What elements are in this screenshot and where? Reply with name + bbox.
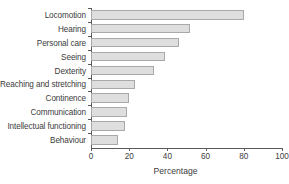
- bar-row: Continence: [91, 91, 282, 105]
- bar-row: Behaviour: [91, 133, 282, 147]
- category-label: Intellectual functioning: [7, 122, 86, 131]
- y-axis-tick: [88, 8, 91, 9]
- x-axis-tick: [129, 148, 130, 151]
- y-axis-tick: [88, 119, 91, 120]
- y-axis-tick: [88, 50, 91, 51]
- bar-hearing: [91, 24, 190, 34]
- bar-intellectual-functioning: [91, 121, 125, 131]
- bar-personal-care: [91, 38, 179, 48]
- x-axis-tick-label: 100: [275, 152, 289, 161]
- y-axis-tick: [88, 133, 91, 134]
- x-axis-tick-label: 80: [239, 152, 248, 161]
- category-label: Behaviour: [50, 136, 86, 145]
- x-axis-title: Percentage: [0, 166, 289, 176]
- y-axis-tick: [88, 78, 91, 79]
- x-axis-tick: [244, 148, 245, 151]
- x-axis-tick-label: 0: [89, 152, 94, 161]
- bar-reaching-and-stretching: [91, 80, 135, 90]
- x-axis-tick-label: 20: [125, 152, 134, 161]
- bar-seeing: [91, 52, 165, 62]
- x-axis-tick-label: 60: [201, 152, 210, 161]
- category-label: Seeing: [61, 52, 86, 61]
- y-axis-tick: [88, 36, 91, 37]
- category-label: Reaching and stretching: [0, 80, 86, 89]
- y-axis-tick: [88, 91, 91, 92]
- bar-behaviour: [91, 135, 118, 145]
- bar-row: Seeing: [91, 50, 282, 64]
- category-label: Continence: [46, 94, 86, 103]
- bar-locomotion: [91, 10, 244, 20]
- x-axis-tick: [91, 148, 92, 151]
- bar-row: Reaching and stretching: [91, 78, 282, 92]
- x-axis-line: [91, 148, 283, 149]
- bar-row: Personal care: [91, 36, 282, 50]
- y-axis-tick: [88, 22, 91, 23]
- plot-area: Locomotion Hearing Personal care Seeing …: [91, 8, 282, 147]
- bar-dexterity: [91, 66, 154, 76]
- bar-row: Dexterity: [91, 64, 282, 78]
- x-axis-tick-label: 40: [163, 152, 172, 161]
- y-axis-tick: [88, 105, 91, 106]
- bar-row: Communication: [91, 105, 282, 119]
- x-axis-tick: [282, 148, 283, 151]
- category-label: Hearing: [58, 24, 86, 33]
- x-axis-tick: [206, 148, 207, 151]
- category-label: Personal care: [37, 38, 86, 47]
- bar-row: Intellectual functioning: [91, 119, 282, 133]
- category-label: Dexterity: [55, 66, 86, 75]
- bar-row: Locomotion: [91, 8, 282, 22]
- category-label: Locomotion: [45, 10, 86, 19]
- bar-row: Hearing: [91, 22, 282, 36]
- bar-chart: Locomotion Hearing Personal care Seeing …: [0, 0, 289, 184]
- bar-continence: [91, 93, 129, 103]
- y-axis-tick: [88, 64, 91, 65]
- x-axis-tick: [167, 148, 168, 151]
- category-label: Communication: [30, 108, 86, 117]
- bar-communication: [91, 107, 127, 117]
